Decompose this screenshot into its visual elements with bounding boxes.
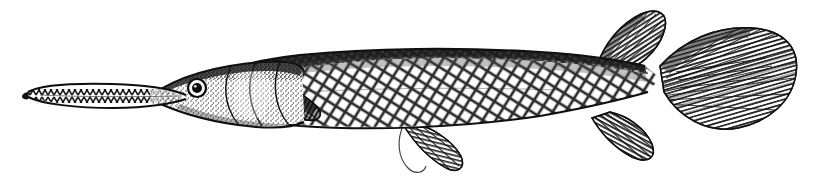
eye-pupil	[192, 83, 202, 93]
gar-fish-illustration	[0, 0, 815, 194]
eye-highlight	[194, 85, 197, 88]
illustration-canvas: Longnose gar vintage steel engraving / l…	[0, 0, 815, 194]
eye	[188, 79, 206, 97]
